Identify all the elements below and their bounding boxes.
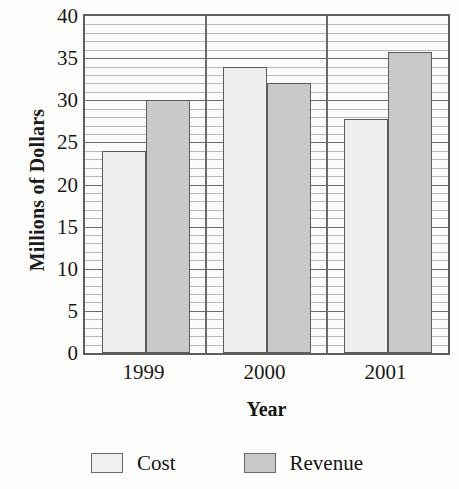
y-axis-tick-label: 10	[30, 258, 78, 279]
revenue-swatch	[244, 453, 276, 473]
legend-entry-cost: Cost	[91, 451, 176, 476]
legend-label: Revenue	[290, 451, 363, 476]
x-axis-tick-label: 1999	[123, 360, 165, 385]
cost-swatch	[91, 453, 123, 473]
bar-cost-1999	[102, 151, 146, 353]
x-axis-tick-labels: 199920002001	[83, 360, 450, 392]
y-axis-tick-label: 30	[30, 90, 78, 111]
chart-legend: CostRevenue	[83, 447, 413, 479]
y-axis-tick-label: 15	[30, 216, 78, 237]
bar-revenue-2001	[388, 52, 432, 353]
y-axis-tick-label: 20	[30, 174, 78, 195]
y-axis-tick-label: 35	[30, 48, 78, 69]
bars-layer	[85, 16, 448, 353]
bar-chart-figure: Millions of Dollars 0510152025303540 199…	[0, 0, 459, 489]
x-axis-tick-label: 2001	[365, 360, 407, 385]
bar-cost-2000	[223, 67, 267, 353]
x-axis-tick-label: 2000	[244, 360, 286, 385]
x-axis-title: Year	[83, 398, 450, 421]
bar-cost-2001	[344, 119, 388, 353]
y-axis-tick-label: 5	[30, 300, 78, 321]
y-axis-tick-labels: 0510152025303540	[30, 0, 78, 489]
plot-area	[83, 14, 450, 355]
bar-revenue-1999	[146, 100, 190, 353]
bar-revenue-2000	[267, 83, 311, 353]
legend-label: Cost	[137, 451, 176, 476]
y-axis-tick-label: 40	[30, 6, 78, 27]
legend-entry-revenue: Revenue	[244, 451, 363, 476]
y-axis-tick-label: 0	[30, 343, 78, 364]
y-axis-tick-label: 25	[30, 132, 78, 153]
